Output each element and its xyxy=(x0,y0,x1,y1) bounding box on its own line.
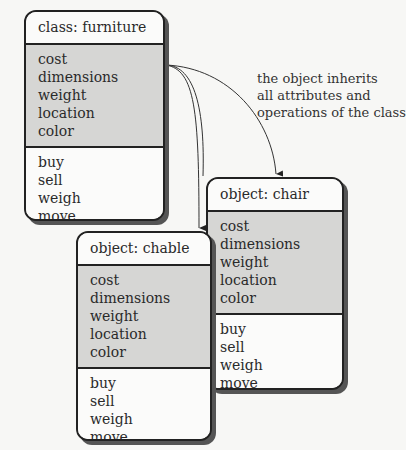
box-title: object: chair xyxy=(208,179,342,212)
object-chable-box: object: chable cost dimensions weight lo… xyxy=(76,231,212,441)
operation: buy xyxy=(220,320,342,338)
attribute: location xyxy=(38,104,163,122)
inheritance-note: the object inherits all attributes and o… xyxy=(257,70,406,121)
operation: weigh xyxy=(38,189,163,207)
attributes-section: cost dimensions weight location color xyxy=(26,45,163,148)
attribute: dimensions xyxy=(90,289,210,307)
operation: move xyxy=(38,207,163,221)
box-title: class: furniture xyxy=(26,12,163,45)
operations-section: buy sell weigh move xyxy=(208,315,342,390)
operation: move xyxy=(220,374,342,390)
operation: weigh xyxy=(90,410,210,428)
attribute: cost xyxy=(220,217,342,235)
object-chair-box: object: chair cost dimensions weight loc… xyxy=(206,177,344,390)
attribute: weight xyxy=(90,307,210,325)
note-line: operations of the class xyxy=(257,104,406,121)
attribute: location xyxy=(220,271,342,289)
attributes-section: cost dimensions weight location color xyxy=(78,266,210,369)
operation: sell xyxy=(38,171,163,189)
attribute: weight xyxy=(38,86,163,104)
attribute: cost xyxy=(38,50,163,68)
operation: move xyxy=(90,428,210,441)
attribute: location xyxy=(90,325,210,343)
attribute: color xyxy=(38,122,163,140)
operations-section: buy sell weigh move xyxy=(78,369,210,441)
operation: buy xyxy=(38,153,163,171)
operations-section: buy sell weigh move xyxy=(26,148,163,221)
operation: sell xyxy=(90,392,210,410)
note-line: the object inherits xyxy=(257,70,406,87)
attribute: weight xyxy=(220,253,342,271)
attribute: dimensions xyxy=(38,68,163,86)
attribute: color xyxy=(90,343,210,361)
operation: weigh xyxy=(220,356,342,374)
attribute: dimensions xyxy=(220,235,342,253)
attributes-section: cost dimensions weight location color xyxy=(208,212,342,315)
class-furniture-box: class: furniture cost dimensions weight … xyxy=(24,10,165,221)
operation: buy xyxy=(90,374,210,392)
operation: sell xyxy=(220,338,342,356)
box-title: object: chable xyxy=(78,233,210,266)
attribute: cost xyxy=(90,271,210,289)
attribute: color xyxy=(220,289,342,307)
note-line: all attributes and xyxy=(257,87,406,104)
